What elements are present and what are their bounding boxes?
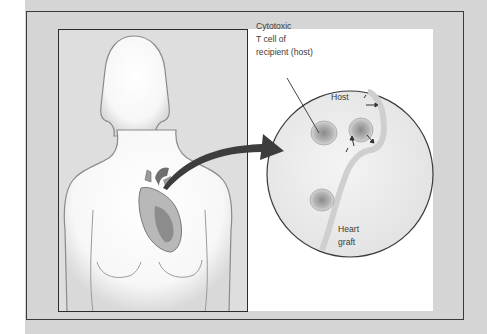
graft-label-line-1: Heart [338, 223, 359, 236]
host-label: Host [331, 91, 349, 104]
tcell-label: Cytotoxic T cell of recipient (host) [256, 20, 313, 59]
curved-arrow-icon [163, 134, 284, 190]
graft-label: Heart graft [338, 223, 359, 249]
graft-label-line-2: graft [338, 236, 359, 249]
rejection-diagram [0, 0, 487, 334]
tcell-label-line-3: recipient (host) [256, 46, 313, 59]
tcell-label-line-1: Cytotoxic [256, 20, 313, 33]
tcell-label-line-2: T cell of [256, 33, 313, 46]
